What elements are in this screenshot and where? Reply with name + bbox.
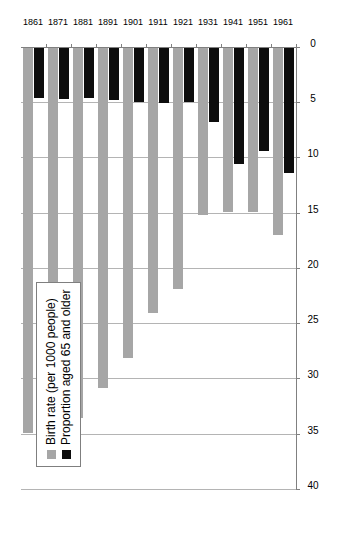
bar-1871-series-2: [59, 48, 69, 99]
bar-1951-series-1: [248, 48, 258, 212]
legend-swatch-gray-icon: [47, 450, 56, 459]
category-tick: [146, 44, 147, 48]
bar-1861-series-2: [34, 48, 44, 98]
value-axis-label: 15: [293, 204, 333, 215]
value-axis-label: 20: [293, 259, 333, 270]
value-axis-label: 5: [293, 93, 333, 104]
bar-1921-series-1: [173, 48, 183, 289]
value-axis: 0510152025303540: [296, 48, 297, 490]
gridline: [21, 268, 296, 269]
bar-1931-series-1: [198, 48, 208, 215]
bar-1941-series-1: [223, 48, 233, 212]
category-label-1961: 1961: [261, 17, 305, 27]
bar-1921-series-2: [184, 48, 194, 102]
category-tick: [196, 44, 197, 48]
bar-1911-series-2: [159, 48, 169, 103]
bar-1901-series-1: [123, 48, 133, 359]
bar-1891-series-1: [98, 48, 108, 388]
value-axis-label: 35: [293, 425, 333, 436]
bar-1951-series-2: [259, 48, 269, 151]
bar-1891-series-2: [109, 48, 119, 100]
bar-1861-series-1: [23, 48, 33, 433]
value-axis-label: 10: [293, 149, 333, 160]
category-tick: [46, 44, 47, 48]
category-tick: [271, 44, 272, 48]
category-tick: [96, 44, 97, 48]
bar-1911-series-1: [148, 48, 158, 313]
bar-1931-series-2: [209, 48, 219, 122]
legend-label-2: Proportion aged 65 and older: [60, 290, 72, 445]
category-tick: [71, 44, 72, 48]
chart-canvas: 0510152025303540 18611871188118911901191…: [0, 0, 338, 545]
bar-1901-series-2: [134, 48, 144, 102]
bar-1881-series-2: [84, 48, 94, 98]
gridline: [21, 489, 296, 490]
legend-entry-1[interactable]: Birth rate (per 1000 people): [45, 290, 57, 459]
value-axis-label: 40: [293, 480, 333, 491]
legend-swatch-black-icon: [62, 450, 71, 459]
legend-label-1: Birth rate (per 1000 people): [45, 298, 57, 445]
value-axis-label: 30: [293, 370, 333, 381]
category-tick: [171, 44, 172, 48]
category-tick: [246, 44, 247, 48]
value-axis-label: 25: [293, 314, 333, 325]
category-tick: [221, 44, 222, 48]
bar-1961-series-1: [273, 48, 283, 235]
category-tick: [121, 44, 122, 48]
gridline: [21, 213, 296, 214]
value-axis-label: 0: [293, 38, 333, 49]
category-tick: [296, 44, 297, 48]
legend-entry-2[interactable]: Proportion aged 65 and older: [60, 290, 72, 459]
bar-1941-series-2: [234, 48, 244, 164]
chart-legend: Birth rate (per 1000 people)Proportion a…: [36, 282, 81, 467]
